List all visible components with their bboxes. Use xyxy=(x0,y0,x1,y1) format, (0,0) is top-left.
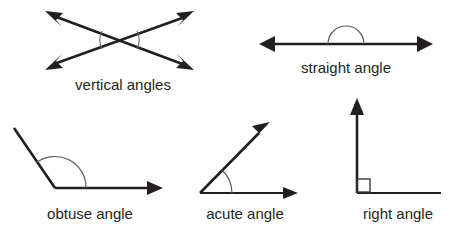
diagram-acute-angle: acute angle xyxy=(200,122,298,222)
diagram-vertical-angles: vertical angles xyxy=(45,11,194,93)
label-obtuse-angle: obtuse angle xyxy=(47,205,133,222)
arrowhead-straight-left xyxy=(259,36,275,52)
diagram-obtuse-angle: obtuse angle xyxy=(14,128,163,222)
label-right-angle: right angle xyxy=(363,205,433,222)
angle-arc-straight xyxy=(328,26,364,44)
label-acute-angle: acute angle xyxy=(206,205,284,222)
obtuse-ray-diagonal xyxy=(14,128,55,188)
label-straight-angle: straight angle xyxy=(301,59,391,76)
angle-types-figure: vertical angles straight angle obtuse an… xyxy=(0,0,455,237)
figure-canvas: vertical angles straight angle obtuse an… xyxy=(0,0,455,237)
arrowhead-acute-right xyxy=(283,187,298,199)
right-angle-square-marker xyxy=(357,179,370,192)
angle-arc-acute xyxy=(222,170,232,193)
arrowhead-obtuse-right xyxy=(147,181,163,195)
arrowhead-right-up xyxy=(350,98,364,115)
label-vertical-angles: vertical angles xyxy=(75,76,171,93)
diagram-straight-angle: straight angle xyxy=(259,26,433,76)
acute-ray-diagonal xyxy=(200,133,259,193)
diagram-right-angle: right angle xyxy=(350,98,441,222)
arrowhead-straight-right xyxy=(417,36,433,52)
